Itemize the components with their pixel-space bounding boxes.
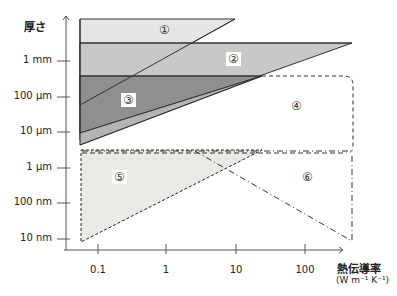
region-2-label: ② bbox=[226, 52, 241, 66]
region-5-label: ⑤ bbox=[112, 170, 127, 184]
region-1-label: ① bbox=[157, 23, 172, 37]
region-5 bbox=[81, 150, 262, 242]
thickness-vs-thermal-conductivity-diagram: 厚さ 1 mm 100 µm 10 µm 1 µm 100 nm 10 nm 0… bbox=[0, 0, 397, 296]
region-4-label: ④ bbox=[289, 99, 304, 113]
y-tick-100nm: 100 nm bbox=[0, 196, 52, 207]
x-ticks bbox=[98, 244, 305, 254]
x-axis-title: 熱伝導率 bbox=[337, 260, 381, 276]
x-axis-unit: (W m⁻¹ K⁻¹) bbox=[336, 275, 389, 285]
region-6-outline bbox=[195, 151, 352, 241]
y-tick-1um: 1 µm bbox=[0, 161, 52, 172]
x-tick-0.1: 0.1 bbox=[78, 264, 118, 275]
x-tick-100: 100 bbox=[285, 264, 325, 275]
region-3-label: ③ bbox=[121, 93, 136, 107]
region-6-label: ⑥ bbox=[300, 170, 315, 184]
y-tick-10um: 10 µm bbox=[0, 125, 52, 136]
y-tick-100um: 100 µm bbox=[0, 90, 52, 101]
x-tick-10: 10 bbox=[216, 264, 256, 275]
y-tick-10nm: 10 nm bbox=[0, 232, 52, 243]
x-tick-1: 1 bbox=[146, 264, 186, 275]
y-ticks bbox=[57, 61, 70, 239]
y-tick-1mm: 1 mm bbox=[0, 54, 52, 65]
y-axis-title: 厚さ bbox=[24, 18, 46, 34]
diagram-canvas bbox=[0, 0, 397, 296]
region-4-outline bbox=[262, 76, 353, 153]
